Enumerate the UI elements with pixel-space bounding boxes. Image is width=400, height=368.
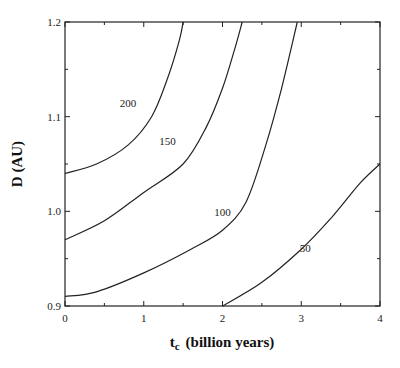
contour-label-100: 100: [214, 206, 231, 218]
contour-chart: 01234 0.91.01.11.2 20015010050 tc(billio…: [0, 0, 400, 368]
y-tick-label: 1.2: [47, 16, 61, 28]
y-tick-label: 1.0: [47, 205, 61, 217]
y-tick-label: 1.1: [47, 111, 61, 123]
x-axis-title: tc(billion years): [170, 334, 275, 352]
x-tick-label: 4: [377, 312, 383, 324]
plot-frame: [65, 22, 380, 306]
contour-label-50: 50: [300, 242, 312, 254]
contour-label-200: 200: [120, 97, 137, 109]
y-tick-labels: 0.91.01.11.2: [47, 16, 61, 312]
x-tick-label: 2: [220, 312, 226, 324]
x-tick-label: 0: [62, 312, 68, 324]
contour-curves: [65, 22, 380, 306]
axis-ticks: [65, 22, 380, 306]
x-tick-label: 3: [299, 312, 305, 324]
contour-curve-50: [223, 164, 381, 306]
y-axis-title: D (AU): [9, 141, 26, 187]
y-tick-label: 0.9: [47, 300, 61, 312]
contour-label-150: 150: [159, 135, 176, 147]
x-tick-label: 1: [141, 312, 147, 324]
x-tick-labels: 01234: [62, 312, 383, 324]
contour-curve-100: [65, 22, 297, 297]
